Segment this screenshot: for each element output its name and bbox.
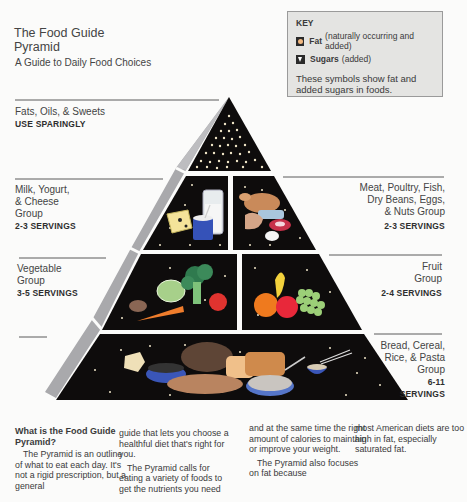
article-col-2: guide that lets you choose a healthful d… — [119, 428, 231, 497]
legend-key: KEY Fat (naturally occurring and added) … — [287, 11, 443, 97]
page-title: The Food Guide Pyramid — [14, 26, 104, 54]
sugar-triangle-icon — [296, 55, 305, 64]
page-subtitle: A Guide to Daily Food Choices — [15, 57, 151, 68]
article-col-4: most American diets are too high in fat,… — [355, 423, 465, 458]
key-item-fat: Fat (naturally occurring and added) — [296, 31, 434, 51]
article-col-1: What is the Food Guide Pyramid? The Pyra… — [15, 426, 127, 494]
fat-circle-icon — [296, 37, 304, 46]
label-milk: Milk, Yogurt, & Cheese Group 2-3 SERVING… — [15, 184, 76, 232]
key-item-sugars: Sugars (added) — [296, 54, 434, 64]
label-fruit: Fruit Group 2-4 SERVINGS — [381, 261, 442, 299]
label-meat: Meat, Poultry, Fish, Dry Beans, Eggs, & … — [360, 182, 445, 232]
tier-fats-oils-sweets — [188, 97, 271, 171]
label-fats: Fats, Oils, & Sweets USE SPARINGLY — [15, 106, 105, 130]
label-bread: Bread, Cereal, Rice, & Pasta Group 6-11 … — [381, 340, 445, 400]
article-col-3: and at the same time the right amount of… — [249, 423, 367, 482]
key-title: KEY — [296, 18, 434, 28]
article-heading: What is the Food Guide Pyramid? — [15, 426, 127, 447]
key-note: These symbols show fat and added sugars … — [296, 73, 434, 95]
label-vegetable: Vegetable Group 3-5 SERVINGS — [17, 263, 78, 299]
